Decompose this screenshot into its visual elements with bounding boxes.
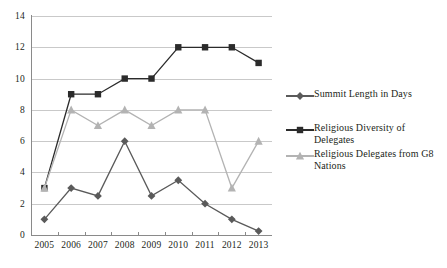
legend-key-marker [294,90,306,102]
legend-item-label: Religious Delegates from G8 Nations [314,148,434,172]
series-square [41,44,262,191]
data-point-marker [95,91,101,97]
data-point-marker [94,192,102,200]
data-point-marker [255,137,263,145]
legend-marker-square-icon [286,124,314,135]
data-point-marker [228,215,236,223]
data-point-marker [121,137,129,145]
series-triangle [40,106,262,192]
data-point-marker [297,127,303,133]
legend-key-marker [294,124,306,136]
legend: Summit Length in DaysReligious Diversity… [286,80,447,190]
data-point-marker [122,75,128,81]
data-point-marker [68,91,74,97]
data-point-marker [228,184,236,192]
line-chart: 02468101214 2005200620072008200920102011… [0,0,447,268]
data-point-marker [296,92,304,100]
series-line [44,141,258,231]
legend-item-label: Religious Diversity of Delegates [314,122,405,146]
x-axis-tick-label: 2013 [249,240,269,250]
y-axis-tick-label: 2 [20,199,25,209]
x-axis-tick-mark [138,232,139,236]
series-line [44,47,258,188]
y-axis-tick-label: 4 [20,167,25,177]
y-axis-tick-label: 8 [20,105,25,115]
legend-key-marker [294,150,306,162]
y-axis-tick-label: 10 [15,74,25,84]
x-axis-tick-mark [218,232,219,236]
data-point-marker [296,152,304,160]
data-point-marker [229,44,235,50]
data-point-marker [255,227,263,235]
y-axis-tick-label: 12 [15,42,25,52]
x-axis [31,235,272,236]
data-point-marker [67,106,75,114]
x-axis-tick-label: 2009 [142,240,162,250]
legend-item[interactable]: Summit Length in Days [286,88,447,101]
data-point-marker [148,75,154,81]
x-axis-tick-mark [111,232,112,236]
series-diamond [40,137,262,235]
x-axis-tick-mark [192,232,193,236]
legend-marker-triangle-icon [286,150,314,161]
data-point-marker [202,44,208,50]
data-point-marker [121,106,129,114]
x-axis-tick-label: 2011 [195,240,214,250]
x-axis-tick-label: 2012 [222,240,242,250]
data-point-marker [175,44,181,50]
y-axis-tick-label: 6 [20,136,25,146]
x-axis-tick-label: 2005 [34,240,54,250]
legend-item-label: Summit Length in Days [314,88,412,100]
x-axis-tick-mark [245,232,246,236]
y-axis-tick-label: 14 [15,11,25,21]
x-axis-tick-mark [85,232,86,236]
x-axis-tick-label: 2010 [168,240,188,250]
x-axis-tick-mark [165,232,166,236]
data-point-marker [148,192,156,200]
plot-area [31,16,272,235]
x-axis-tick-label: 2008 [115,240,135,250]
x-axis-tick-label: 2006 [61,240,81,250]
data-point-marker [94,121,102,129]
legend-item[interactable]: Religious Delegates from G8 Nations [286,148,447,172]
y-axis-tick-label: 0 [20,230,25,240]
legend-item[interactable]: Religious Diversity of Delegates [286,122,447,146]
legend-marker-diamond-icon [286,90,314,101]
data-point-marker [147,121,155,129]
series-layer [31,16,272,235]
x-axis-tick-mark [58,232,59,236]
data-point-marker [255,60,261,66]
x-axis-tick-label: 2007 [88,240,108,250]
